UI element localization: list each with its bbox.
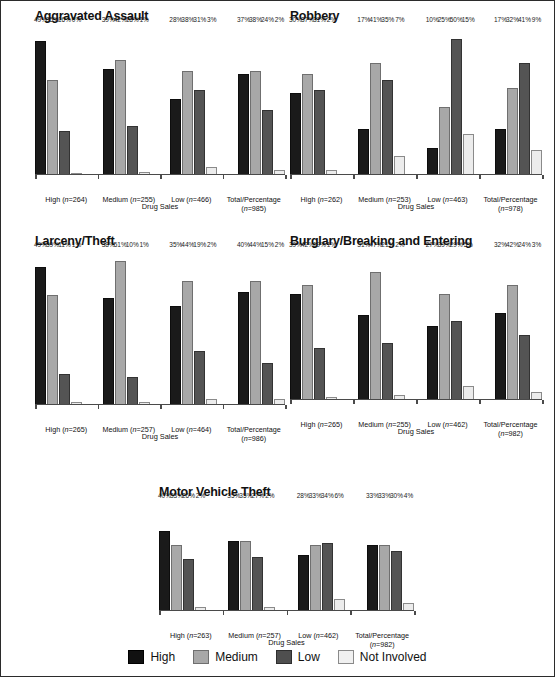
- x-axis-tick: [290, 175, 292, 179]
- bar-high: 30%: [290, 93, 301, 175]
- bar-column: 42%: [115, 25, 126, 175]
- bar-medium: 39%: [47, 295, 58, 405]
- bar-column: 9%: [531, 25, 542, 175]
- x-axis-tick: [290, 400, 292, 404]
- bar-medium: 42%: [115, 60, 126, 175]
- bar-column: 33%: [171, 501, 182, 611]
- legend-swatch-notinv: [338, 650, 354, 664]
- bar-column: 2%: [274, 25, 285, 175]
- bar-low: 35%: [382, 80, 393, 175]
- bar-value-label: 2%: [395, 242, 404, 250]
- bar-value-label: 10%: [126, 242, 139, 250]
- bar-high: 27%: [427, 326, 438, 400]
- bar-column: 41%: [370, 25, 381, 175]
- bar-column: 41%: [519, 25, 530, 175]
- bar-column: 19%: [314, 250, 325, 400]
- bar-value-label: 3%: [532, 242, 541, 250]
- bar-value-label: 15%: [261, 242, 274, 250]
- plot-area: 30%37%31%2%17%41%35%7%10%25%50%15%17%32%…: [290, 25, 542, 175]
- bar-column: 7%: [394, 25, 405, 175]
- bar-column: 2%: [195, 501, 206, 611]
- bar-group: 31%47%21%2%: [358, 250, 405, 400]
- legend-item-low: Low: [276, 650, 320, 664]
- bar-medium: 42%: [507, 285, 518, 400]
- bar-column: 17%: [495, 25, 506, 175]
- x-axis-tick: [416, 175, 418, 179]
- bar-value-label: 18%: [126, 17, 139, 25]
- x-axis-title: Drug Sales: [290, 202, 542, 211]
- bar-value-label: 19%: [193, 242, 206, 250]
- bar-column: 40%: [159, 501, 170, 611]
- bar-group: 28%33%34%6%: [298, 501, 345, 611]
- x-axis-tick: [542, 400, 544, 404]
- bar-column: 0%: [71, 25, 82, 175]
- bar-low: 24%: [262, 110, 273, 175]
- chart-panel-robbery: Robbery30%37%31%2%17%41%35%7%10%25%50%15…: [290, 9, 542, 211]
- bar-column: 26%: [183, 501, 194, 611]
- bar-column: 11%: [59, 250, 70, 405]
- x-axis-tick: [350, 611, 352, 615]
- bar-column: 32%: [495, 250, 506, 400]
- x-axis-tick: [98, 405, 100, 409]
- bar-low: 50%: [451, 39, 462, 175]
- bar-value-label: 16%: [58, 17, 71, 25]
- bar-high: 40%: [238, 292, 249, 405]
- bar-column: 33%: [310, 501, 321, 611]
- bar-column: 21%: [382, 250, 393, 400]
- bar-column: 42%: [507, 250, 518, 400]
- bar-column: 49%: [35, 25, 46, 175]
- bar-column: 30%: [391, 501, 402, 611]
- bar-group: 35%35%27%2%: [228, 501, 275, 611]
- bar-value-label: 2%: [327, 17, 336, 25]
- x-axis-title: Drug Sales: [35, 202, 285, 211]
- bar-medium: 38%: [250, 71, 261, 175]
- legend-label: High: [150, 650, 175, 664]
- bar-medium: 47%: [370, 272, 381, 400]
- bar-value-label: 31%: [193, 17, 206, 25]
- bar-groups: 49%39%11%1%38%51%10%1%35%44%19%2%40%44%1…: [35, 250, 285, 405]
- bar-column: 37%: [238, 25, 249, 175]
- bar-column: 6%: [334, 501, 345, 611]
- bar-medium: 38%: [182, 71, 193, 175]
- bar-column: 2%: [394, 250, 405, 400]
- bar-column: 18%: [127, 25, 138, 175]
- bar-column: 39%: [103, 25, 114, 175]
- bar-low: 41%: [519, 63, 530, 175]
- bar-group: 32%42%24%3%: [495, 250, 542, 400]
- bar-group: 28%38%31%3%: [170, 25, 217, 175]
- legend-item-high: High: [128, 650, 175, 664]
- bar-value-label: 27%: [251, 493, 264, 501]
- bar-low: 31%: [194, 90, 205, 175]
- bar-column: 15%: [463, 25, 474, 175]
- x-axis-tick: [285, 405, 287, 409]
- bar-low: 26%: [183, 559, 194, 611]
- bar-column: 38%: [250, 25, 261, 175]
- bar-column: 31%: [194, 25, 205, 175]
- bar-column: 50%: [451, 25, 462, 175]
- bar-value-label: 29%: [450, 242, 463, 250]
- bar-column: 28%: [170, 25, 181, 175]
- bar-low: 19%: [194, 351, 205, 405]
- bar-group: 35%44%19%2%: [170, 250, 217, 405]
- bar-column: 19%: [194, 250, 205, 405]
- bar-value-label: 39%: [46, 242, 59, 250]
- bar-column: 49%: [35, 250, 46, 405]
- bar-notinv: 15%: [463, 134, 474, 175]
- bar-column: 4%: [403, 501, 414, 611]
- bar-medium: 32%: [507, 88, 518, 175]
- bar-value-label: 1%: [139, 17, 148, 25]
- bar-value-label: 41%: [518, 17, 531, 25]
- bar-column: 31%: [314, 25, 325, 175]
- bar-low: 31%: [314, 90, 325, 175]
- bar-column: 3%: [531, 250, 542, 400]
- bar-low: 24%: [519, 335, 530, 400]
- bar-medium: 37%: [302, 74, 313, 175]
- bar-high: 32%: [495, 313, 506, 400]
- x-axis-title: Drug Sales: [290, 427, 542, 436]
- bar-high: 39%: [103, 69, 114, 175]
- bar-groups: 39%42%19%1%31%47%21%2%27%39%29%5%32%42%2…: [290, 250, 542, 400]
- bar-group: 27%39%29%5%: [427, 250, 474, 400]
- bar-high: 28%: [298, 555, 309, 611]
- bar-column: 35%: [47, 25, 58, 175]
- bar-low: 27%: [252, 557, 263, 611]
